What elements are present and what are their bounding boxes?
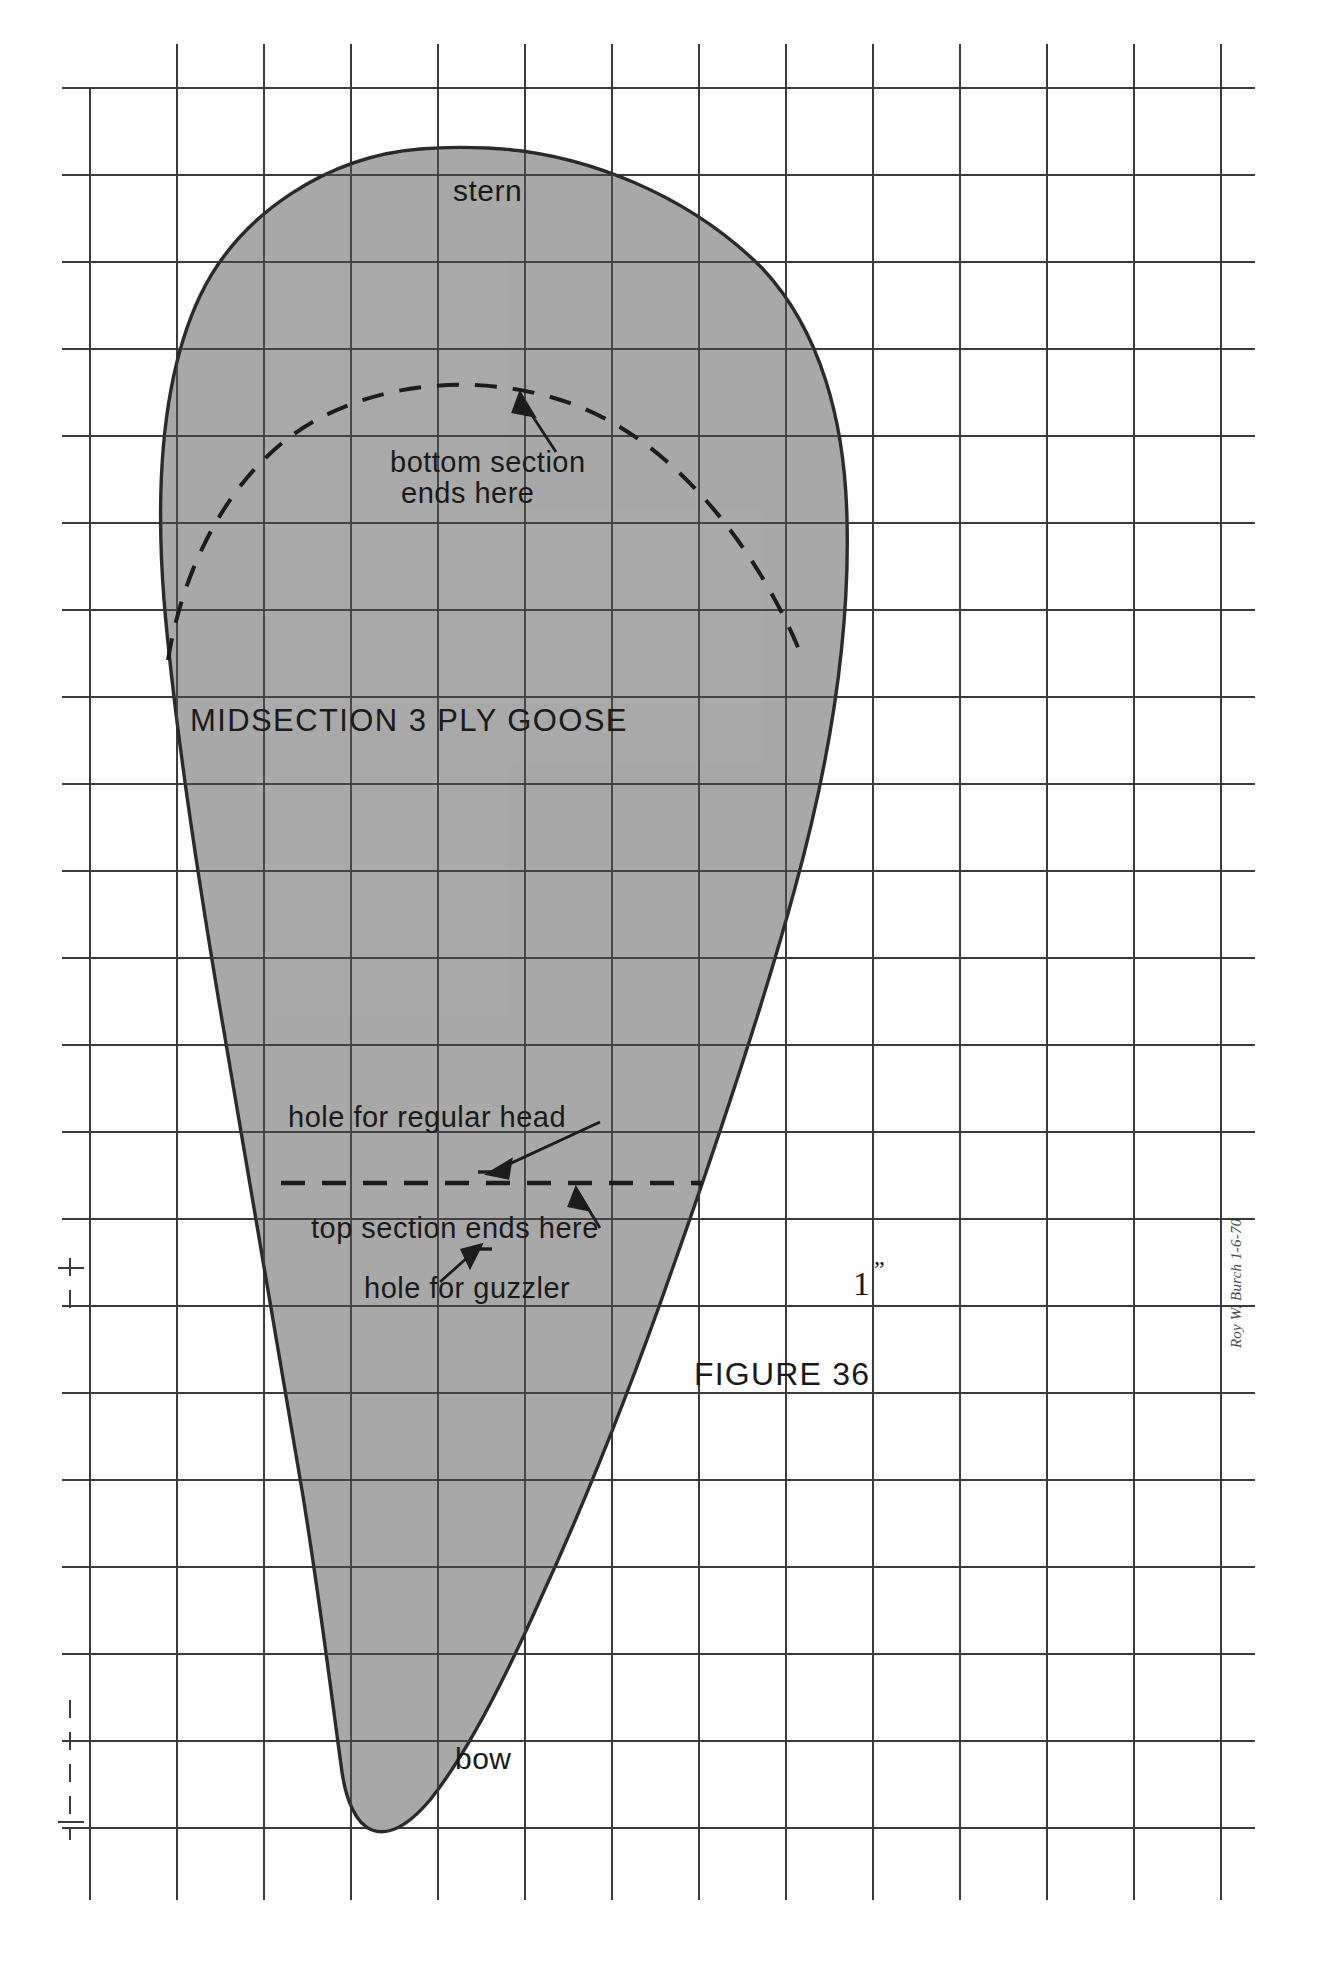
figure-caption: FIGURE 36 bbox=[694, 1356, 870, 1393]
signature: Roy W. Burch 1-6-70 bbox=[1228, 1228, 1256, 1348]
label-midsection: MIDSECTION 3 PLY GOOSE bbox=[190, 703, 628, 739]
label-bow: bow bbox=[455, 1742, 512, 1776]
label-stern: stern bbox=[453, 174, 522, 208]
label-bottom-section-l2: ends here bbox=[401, 477, 535, 510]
label-bottom-section-l1: bottom section bbox=[390, 446, 586, 479]
label-hole-regular-head: hole for regular head bbox=[288, 1101, 566, 1134]
drawing-sheet: stern bottom section ends here MIDSECTIO… bbox=[0, 0, 1320, 1981]
scale-number: 1 bbox=[853, 1265, 871, 1303]
scale-unit-icon: ” bbox=[874, 1256, 885, 1283]
label-hole-guzzler: hole for guzzler bbox=[364, 1272, 570, 1305]
technical-drawing-plate bbox=[0, 0, 1320, 1981]
label-top-section-ends: top section ends here bbox=[311, 1212, 599, 1245]
